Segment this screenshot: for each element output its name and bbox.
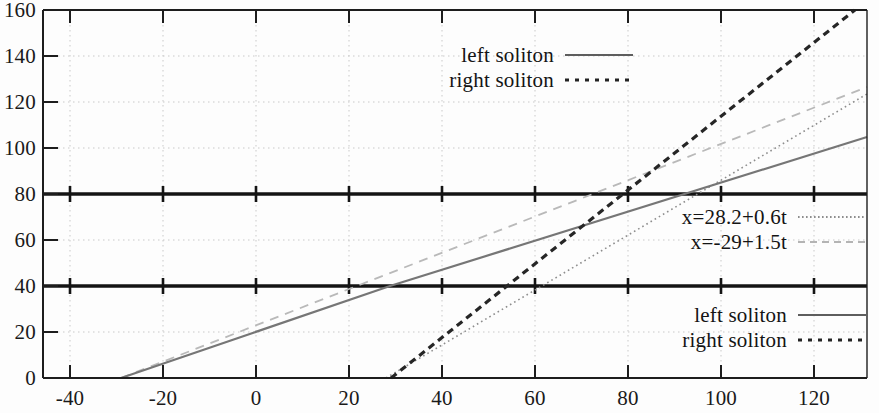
legend-label-right-soliton: right soliton xyxy=(449,68,563,93)
soliton-trajectory-chart: 160 140 120 100 80 60 40 20 0 -40 -20 0 … xyxy=(0,0,879,413)
x-tick-label: 80 xyxy=(617,386,638,411)
y-tick-label: 140 xyxy=(0,44,36,69)
x-tick-label: 0 xyxy=(251,386,262,411)
x-tick-label: -20 xyxy=(149,386,178,411)
y-axis-ticks xyxy=(43,10,58,378)
x-tick-label: -40 xyxy=(56,386,85,411)
x-tick-label: 20 xyxy=(338,386,359,411)
y-tick-label: 80 xyxy=(0,182,36,207)
x-tick-label: 40 xyxy=(431,386,452,411)
y-tick-label: 120 xyxy=(0,90,36,115)
legend-item-right-soliton: right soliton xyxy=(430,68,635,93)
legend-sample-dotted-line-icon xyxy=(563,74,635,88)
legend-sample-solid-line-icon xyxy=(563,49,635,63)
legend-sample-dashed-line-icon xyxy=(796,236,868,250)
legend-label-left-soliton: left soliton xyxy=(694,303,796,328)
x-tick-label: 60 xyxy=(524,386,545,411)
y-tick-label: 100 xyxy=(0,136,36,161)
bottom-legend: left soliton right soliton xyxy=(645,303,868,353)
legend-item-left-soliton: left soliton xyxy=(645,303,868,328)
y-tick-label: 60 xyxy=(0,228,36,253)
legend-label-left-soliton: left soliton xyxy=(461,43,563,68)
y-tick-label: 20 xyxy=(0,320,36,345)
legend-sample-fine-dotted-line-icon xyxy=(796,211,868,225)
legend-label-right-soliton: right soliton xyxy=(682,328,796,353)
fit-legend: x=28.2+0.6t x=-29+1.5t xyxy=(620,205,868,255)
y-tick-label: 160 xyxy=(0,0,36,23)
legend-item-left-soliton: left soliton xyxy=(430,43,635,68)
legend-item-fit-dotted: x=28.2+0.6t xyxy=(620,205,868,230)
x-tick-label: 120 xyxy=(798,386,830,411)
legend-label-fit-dashed: x=-29+1.5t xyxy=(691,230,796,255)
y-tick-label: 40 xyxy=(0,274,36,299)
legend-item-right-soliton: right soliton xyxy=(645,328,868,353)
top-legend: left soliton right soliton xyxy=(430,43,635,93)
x-tick-label: 100 xyxy=(705,386,737,411)
legend-sample-dotted-line-icon xyxy=(796,334,868,348)
legend-sample-solid-line-icon xyxy=(796,309,868,323)
legend-label-fit-dotted: x=28.2+0.6t xyxy=(682,205,796,230)
legend-item-fit-dashed: x=-29+1.5t xyxy=(620,230,868,255)
y-tick-label: 0 xyxy=(0,366,36,391)
